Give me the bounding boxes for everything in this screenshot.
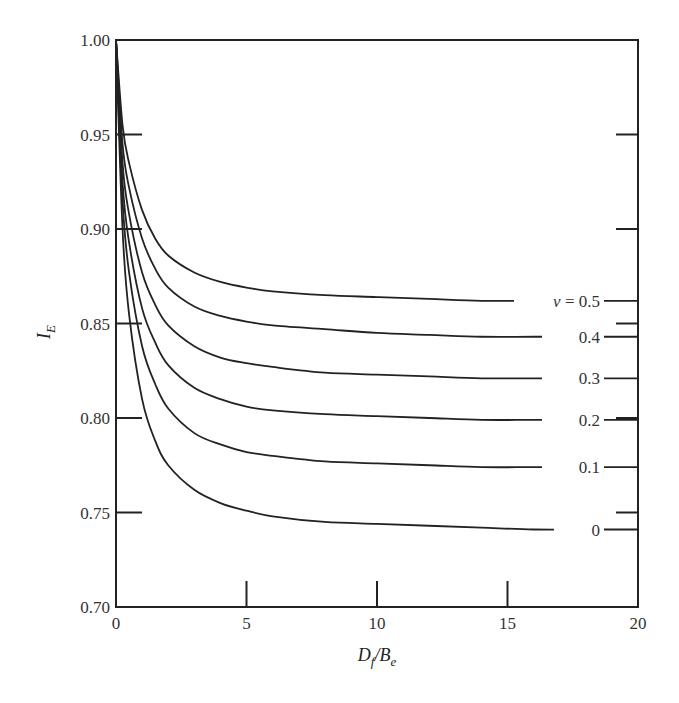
curve-label: 0: [592, 521, 601, 540]
curve-nu-0.3: [116, 40, 638, 378]
curve-label: 0.1: [579, 458, 600, 477]
x-tick-label: 20: [630, 614, 647, 633]
axis-ticks: [116, 135, 638, 608]
x-tick-label: 10: [369, 614, 386, 633]
x-tick-label: 5: [242, 614, 251, 633]
y-tick-label: 0.70: [80, 598, 110, 617]
curve-nu-0.1: [116, 40, 638, 467]
y-axis-label: IE: [34, 325, 58, 340]
curve-labels: ν = 0.50.40.30.20.10: [553, 292, 600, 540]
curve-label: 0.4: [579, 328, 601, 347]
x-tick-label: 15: [499, 614, 516, 633]
y-tick-label: 0.80: [80, 409, 110, 428]
plot-frame: [116, 40, 638, 607]
y-tick-label: 0.85: [80, 315, 110, 334]
x-tick-label: 0: [112, 614, 121, 633]
x-axis-label: Df/Be: [357, 645, 397, 669]
curve-label: ν = 0.5: [553, 292, 600, 311]
y-tick-label: 1.00: [80, 31, 110, 50]
y-tick-label: 0.90: [80, 220, 110, 239]
curves: [116, 40, 638, 530]
curve-label: 0.3: [579, 369, 600, 388]
curve-nu-0.2: [116, 40, 638, 420]
y-tick-label: 0.75: [80, 504, 110, 523]
curve-nu-0: [116, 40, 638, 530]
chart: ν = 0.50.40.30.20.10 051015200.700.750.8…: [0, 0, 679, 703]
y-tick-label: 0.95: [80, 126, 110, 145]
curve-nu-0.5: [116, 40, 638, 301]
curve-label: 0.2: [579, 411, 600, 430]
